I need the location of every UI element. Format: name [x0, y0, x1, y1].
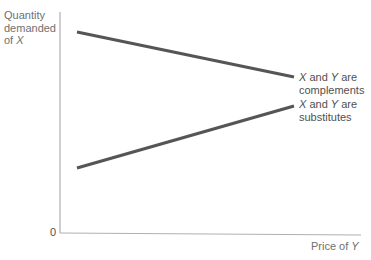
ylabel-line3: of X	[4, 34, 56, 47]
substitutes-line	[77, 106, 294, 168]
complements-text: complements	[299, 84, 364, 97]
complements-line	[77, 32, 294, 77]
x-axis-label: Price of Y	[311, 240, 359, 252]
text-are: are	[338, 71, 357, 83]
ylabel-line2: demanded	[4, 22, 56, 35]
xlabel-text: Price of	[311, 240, 351, 252]
text-are: are	[338, 98, 357, 110]
substitutes-label: X and Y are substitutes	[299, 98, 357, 123]
origin-label: 0	[50, 226, 56, 238]
xlabel-var: Y	[351, 240, 358, 252]
substitutes-label-line1: X and Y are	[299, 98, 357, 111]
text-and: and	[306, 71, 330, 83]
complements-label-line1: X and Y are	[299, 71, 364, 84]
substitutes-text: substitutes	[299, 111, 357, 124]
ylabel-of: of	[4, 34, 16, 46]
y-axis-label: Quantity demanded of X	[4, 9, 56, 47]
complements-label: X and Y are complements	[299, 71, 364, 96]
ylabel-line1: Quantity	[4, 9, 56, 22]
text-and: and	[306, 98, 330, 110]
x-axis	[60, 233, 361, 235]
ylabel-var: X	[16, 34, 23, 46]
